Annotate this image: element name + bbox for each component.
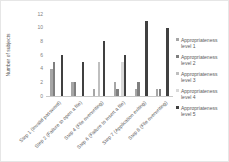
y-tick-label: 2 — [31, 80, 43, 85]
bar-group — [67, 14, 88, 96]
y-tick-label: 12 — [31, 12, 43, 17]
bar-chart-figure: Number of subjects 024681012 Step 1 (Inv… — [0, 0, 229, 162]
y-tick-label: 0 — [31, 94, 43, 99]
legend-item: Appropriateness level 5 — [176, 105, 228, 117]
legend-label: Appropriateness level 4 — [181, 88, 228, 100]
legend-item: Appropriateness level 3 — [176, 71, 228, 83]
bar — [93, 89, 95, 96]
bar — [82, 62, 84, 96]
legend-item: Appropriateness level 1 — [176, 37, 228, 49]
y-tick-label: 4 — [31, 66, 43, 71]
bar — [61, 55, 63, 96]
legend-label: Appropriateness level 1 — [181, 37, 228, 49]
legend-label: Appropriateness level 2 — [181, 54, 228, 66]
bar — [116, 89, 118, 96]
bar — [145, 21, 147, 96]
bar-group — [46, 14, 67, 96]
legend-label: Appropriateness level 3 — [181, 71, 228, 83]
legend-item: Appropriateness level 2 — [176, 54, 228, 66]
x-category-label: Step 8 (File overwriting) — [127, 100, 168, 141]
legend-label: Appropriateness level 5 — [181, 105, 228, 117]
bar — [74, 82, 76, 96]
legend-marker-swatch — [176, 55, 179, 58]
x-category-label: Step 4 (File overwriting) — [64, 100, 105, 141]
bar-group — [110, 14, 131, 96]
bar — [137, 82, 139, 96]
legend: Appropriateness level 1Appropriateness l… — [176, 37, 228, 117]
bar — [124, 55, 126, 96]
plot-area — [46, 14, 173, 97]
bar — [159, 89, 161, 96]
bar — [53, 62, 55, 96]
y-tick-label: 6 — [31, 53, 43, 58]
bar-group — [131, 14, 152, 96]
legend-marker-swatch — [176, 89, 179, 92]
bar — [166, 28, 168, 96]
bar-group — [152, 14, 173, 96]
y-axis-title: Number of subjects — [5, 25, 11, 85]
bar — [103, 41, 105, 96]
legend-marker-swatch — [176, 38, 179, 41]
legend-marker-swatch — [176, 106, 179, 109]
legend-marker-swatch — [176, 72, 179, 75]
bar-group — [88, 14, 109, 96]
y-tick-label: 10 — [31, 25, 43, 30]
legend-item: Appropriateness level 4 — [176, 88, 228, 100]
y-tick-label: 8 — [31, 39, 43, 44]
bar — [98, 62, 100, 96]
